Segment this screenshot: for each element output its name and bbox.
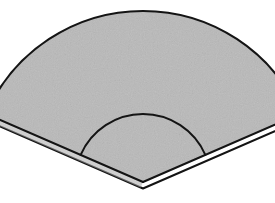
top-sector-face [0,11,275,188]
apex-marker [142,181,144,183]
sector-diagram [0,0,275,203]
figure-canvas: A shaded circular sector (pie wedge) dra… [0,0,275,203]
